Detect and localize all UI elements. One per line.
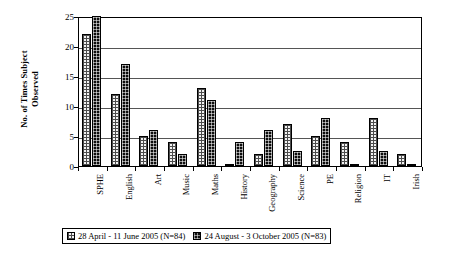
y-axis-tick-label: 10 — [65, 103, 74, 112]
x-axis-label-history: History — [240, 174, 249, 200]
x-axis-label-it: IT — [383, 174, 392, 182]
x-axis-tick-mark — [193, 167, 194, 171]
bar-religion-series-1 — [340, 142, 349, 166]
y-axis-tick-label: 20 — [65, 43, 74, 52]
bar-maths-series-1 — [197, 88, 206, 166]
bar-group — [165, 18, 194, 166]
bar-art-series-1 — [139, 136, 148, 166]
bar-history-series-1 — [225, 164, 234, 166]
y-axis-title-line-1: No. of Times Subject — [19, 50, 30, 127]
x-axis-tick-mark — [393, 167, 394, 171]
bar-english-series-2 — [121, 64, 130, 166]
plot-area — [78, 17, 422, 167]
bar-group — [136, 18, 165, 166]
bar-irish-series-2 — [407, 164, 416, 166]
bar-group — [79, 18, 108, 166]
x-axis-label-music: Music — [182, 174, 191, 195]
legend-entry-series-1: 28 April - 11 June 2005 (N=84) — [67, 232, 185, 241]
bar-sphe-series-1 — [82, 34, 91, 166]
bar-science-series-2 — [293, 151, 302, 166]
bar-chart-figure: No. of Times Subject Observed 0510152025… — [0, 0, 454, 265]
x-axis: SPHEEnglishArtMusicMathsHistoryGeography… — [78, 167, 422, 213]
bar-group — [394, 18, 423, 166]
bar-group — [222, 18, 251, 166]
light-dotted-swatch-icon — [67, 232, 75, 240]
bar-geography-series-2 — [264, 130, 273, 166]
x-axis-label-geography: Geography — [268, 174, 277, 212]
legend-entry-series-2: 24 August - 3 October 2005 (N=83) — [193, 232, 326, 241]
x-axis-tick-mark — [336, 167, 337, 171]
bar-science-series-1 — [283, 124, 292, 166]
bar-maths-series-2 — [207, 100, 216, 166]
x-axis-label-science: Science — [297, 174, 306, 200]
y-axis-tick-label: 15 — [65, 73, 74, 82]
bar-it-series-1 — [369, 118, 378, 166]
x-axis-label-irish: Irish — [412, 174, 421, 190]
x-axis-tick-mark — [250, 167, 251, 171]
y-axis-tick-label: 25 — [65, 13, 74, 22]
bar-group — [251, 18, 280, 166]
solid-black-swatch-icon — [193, 232, 201, 240]
bar-pe-series-2 — [321, 118, 330, 166]
bar-group — [308, 18, 337, 166]
bar-group — [280, 18, 309, 166]
x-axis-label-english: English — [125, 174, 134, 200]
bar-music-series-1 — [168, 142, 177, 166]
bar-group — [194, 18, 223, 166]
bar-english-series-1 — [111, 94, 120, 166]
x-axis-label-sphe: SPHE — [96, 174, 105, 195]
bar-art-series-2 — [149, 130, 158, 166]
x-axis-label-pe: PE — [326, 174, 335, 184]
bar-pe-series-1 — [311, 136, 320, 166]
x-axis-label-art: Art — [154, 174, 163, 185]
x-axis-tick-mark — [135, 167, 136, 171]
bar-geography-series-1 — [254, 154, 263, 166]
legend: 28 April - 11 June 2005 (N=84) 24 August… — [62, 228, 331, 244]
bar-irish-series-1 — [397, 154, 406, 166]
x-axis-tick-mark — [365, 167, 366, 171]
bar-music-series-2 — [178, 154, 187, 166]
x-axis-tick-mark — [279, 167, 280, 171]
x-axis-label-maths: Maths — [211, 174, 220, 195]
bar-sphe-series-2 — [92, 16, 101, 166]
x-axis-tick-mark — [307, 167, 308, 171]
x-axis-tick-mark — [422, 167, 423, 171]
bar-history-series-2 — [235, 142, 244, 166]
x-axis-label-religion: Religion — [354, 174, 363, 203]
x-axis-tick-mark — [107, 167, 108, 171]
bar-group — [366, 18, 395, 166]
legend-label-series-2: 24 August - 3 October 2005 (N=83) — [204, 232, 326, 241]
bar-religion-series-2 — [350, 164, 359, 166]
legend-label-series-1: 28 April - 11 June 2005 (N=84) — [78, 232, 185, 241]
x-axis-tick-mark — [164, 167, 165, 171]
x-axis-tick-mark — [78, 167, 79, 171]
y-axis-title-line-2: Observed — [30, 50, 41, 127]
bar-it-series-2 — [379, 151, 388, 166]
y-axis-title: No. of Times Subject Observed — [8, 14, 52, 164]
x-axis-tick-mark — [221, 167, 222, 171]
bar-group — [108, 18, 137, 166]
bar-group — [337, 18, 366, 166]
